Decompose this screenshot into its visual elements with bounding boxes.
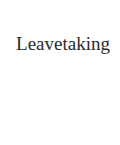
book-title: Leavetaking — [0, 33, 120, 55]
